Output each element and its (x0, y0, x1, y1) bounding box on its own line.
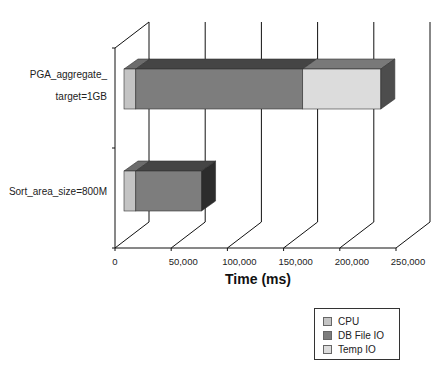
x-tick-label: 150,000 (278, 256, 312, 267)
category-label: target=1GB (56, 91, 108, 102)
floor-line (227, 222, 261, 248)
legend-swatch-temp-io (323, 345, 332, 354)
bar-top-face (303, 59, 395, 69)
wall-top-edge (115, 22, 149, 48)
x-axis-title: Time (ms) (225, 271, 291, 287)
category-label: Sort_area_size=800M (9, 186, 107, 197)
bar-segment-db-file-io (136, 69, 303, 109)
legend-item-cpu: CPU (323, 314, 359, 328)
legend-item-temp-io: Temp IO (323, 342, 376, 356)
bar-top-face (136, 59, 317, 69)
floor-line (340, 222, 374, 248)
floor-line (115, 222, 149, 248)
x-tick-label: 0 (112, 256, 117, 267)
x-tick-label: 250,000 (391, 256, 425, 267)
category-label: PGA_aggregate_ (30, 69, 108, 80)
legend-item-db-file-io: DB File IO (323, 328, 384, 342)
floor-line (171, 222, 205, 248)
bar-segment-cpu (124, 69, 136, 109)
bar-segment-cpu (124, 171, 136, 211)
x-tick-label: 50,000 (169, 256, 198, 267)
floor-line (396, 222, 430, 248)
x-tick-label: 100,000 (222, 256, 256, 267)
bar-segment-db-file-io (136, 171, 202, 211)
legend-label: Temp IO (338, 344, 376, 355)
x-tick-label: 200,000 (335, 256, 369, 267)
floor-line (284, 222, 318, 248)
chart-legend: CPU DB File IO Temp IO (314, 308, 400, 360)
legend-label: DB File IO (338, 330, 384, 341)
legend-swatch-db-file-io (323, 331, 332, 340)
legend-swatch-cpu (323, 317, 332, 326)
bar-segment-temp-io (303, 69, 381, 109)
legend-label: CPU (338, 316, 359, 327)
